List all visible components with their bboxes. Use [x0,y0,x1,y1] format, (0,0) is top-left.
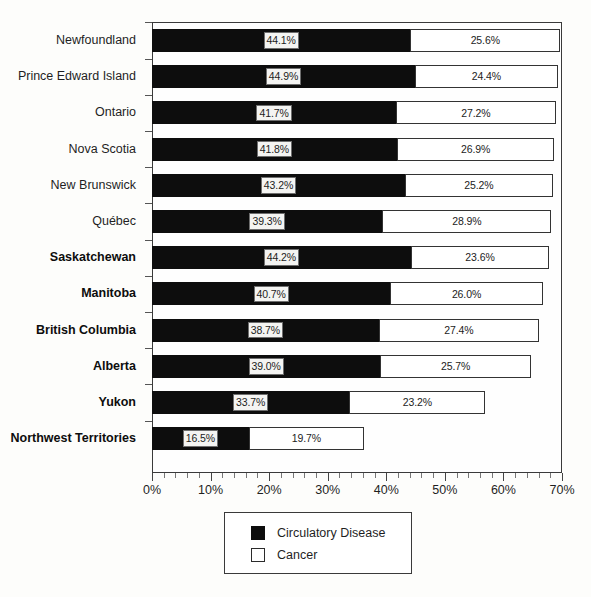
bar-value-label: 24.4% [472,71,501,82]
x-axis-tick-minor [480,473,481,478]
bar-segment-circulatory-disease: 44.2% [152,246,411,269]
x-axis-tick-minor [246,473,247,478]
bar-value-label: 43.2% [261,177,296,194]
x-axis-tick-minor [457,473,458,478]
bar-segment-circulatory-disease: 16.5% [152,427,249,450]
x-axis-tick-minor [527,473,528,478]
y-axis-tick [145,167,152,168]
bar-segment-cancer: 25.7% [380,355,531,378]
x-axis-tick-minor [293,473,294,478]
x-axis-tick-minor [410,473,411,478]
bar-value-label: 27.2% [461,108,490,119]
y-axis-label-northwest-territories: Northwest Territories [11,427,137,450]
bar-value-label: 25.6% [471,35,500,46]
bar-value-label: 19.7% [292,433,321,444]
legend-item-cancer: Cancer [225,544,411,566]
bar-value-label: 26.0% [452,289,481,300]
x-axis-tick-major [386,473,387,481]
bar-row: 33.7%23.2% [152,391,562,414]
x-axis-tick-minor [363,473,364,478]
y-axis-label-qu-bec: Québec [92,210,136,233]
bar-value-label: 41.7% [256,105,291,122]
bar-segment-cancer: 23.6% [411,246,549,269]
bar-row: 39.3%28.9% [152,210,562,233]
y-axis-tick [145,203,152,204]
x-axis-tick-minor [515,473,516,478]
x-axis-tick-major [152,473,153,481]
bar-value-label: 44.9% [266,68,301,85]
x-axis-tick-minor [316,473,317,478]
bar-segment-circulatory-disease: 39.3% [152,210,382,233]
bar-value-label: 28.9% [452,216,481,227]
bar-row: 38.7%27.4% [152,319,562,342]
x-axis-tick-label: 60% [491,483,516,497]
bar-row: 43.2%25.2% [152,174,562,197]
bar-row: 40.7%26.0% [152,282,562,305]
bar-value-label: 25.2% [464,180,493,191]
y-axis-label-alberta: Alberta [93,355,136,378]
y-axis-label-manitoba: Manitoba [81,282,136,305]
x-axis-tick-major [503,473,504,481]
bar-segment-circulatory-disease: 41.8% [152,138,397,161]
bar-value-label: 38.7% [248,322,283,339]
y-axis-tick [145,312,152,313]
bar-segment-cancer: 26.0% [390,282,542,305]
bar-segment-circulatory-disease: 44.9% [152,65,415,88]
y-axis-tick [145,276,152,277]
bar-segment-circulatory-disease: 33.7% [152,391,349,414]
bar-segment-circulatory-disease: 39.0% [152,355,380,378]
x-axis-tick-minor [257,473,258,478]
bar-segment-cancer: 26.9% [397,138,555,161]
y-axis-tick [145,22,152,23]
y-axis-tick [145,59,152,60]
bar-row: 44.2%23.6% [152,246,562,269]
x-axis-tick-label: 20% [257,483,282,497]
y-axis-label-british-columbia: British Columbia [36,319,136,342]
x-axis-tick-minor [550,473,551,478]
y-axis-label-saskatchewan: Saskatchewan [50,246,136,269]
x-axis-tick-label: 0% [143,483,161,497]
x-axis-tick-major [211,473,212,481]
bar-value-label: 23.2% [403,397,432,408]
bars-layer: 44.1%25.6%44.9%24.4%41.7%27.2%41.8%26.9%… [152,22,562,473]
stacked-bar-chart: NewfoundlandPrince Edward IslandOntarioN… [0,0,591,597]
bar-row: 16.5%19.7% [152,427,562,450]
x-axis-tick-minor [468,473,469,478]
x-axis-tick-minor [339,473,340,478]
bar-value-label: 40.7% [254,286,289,303]
x-axis-tick-minor [234,473,235,478]
x-axis-tick-major [328,473,329,481]
bar-segment-circulatory-disease: 41.7% [152,101,396,124]
y-axis-label-new-brunswick: New Brunswick [51,174,136,197]
x-axis-tick-label: 10% [198,483,223,497]
y-axis-label-prince-edward-island: Prince Edward Island [18,65,136,88]
bar-value-label: 39.0% [249,358,284,375]
x-axis-tick-minor [187,473,188,478]
x-axis-tick-minor [398,473,399,478]
bar-value-label: 23.6% [465,252,494,263]
bar-segment-cancer: 27.4% [379,319,539,342]
bar-value-label: 33.7% [233,394,268,411]
x-axis-tick-minor [281,473,282,478]
y-axis-tick [145,240,152,241]
bar-segment-cancer: 24.4% [415,65,558,88]
bar-segment-cancer: 25.6% [410,29,560,52]
bar-value-label: 39.3% [249,213,284,230]
bar-value-label: 27.4% [444,325,473,336]
chart-legend: Circulatory Disease Cancer [224,512,412,574]
bar-segment-circulatory-disease: 40.7% [152,282,390,305]
x-axis-tick-label: 70% [549,483,574,497]
bar-row: 44.1%25.6% [152,29,562,52]
legend-swatch-white-icon [251,548,265,562]
x-axis-tick-minor [433,473,434,478]
y-axis-label-ontario: Ontario [95,101,136,124]
x-axis-tick-minor [375,473,376,478]
bar-value-label: 41.8% [257,141,292,158]
x-axis-tick-minor [175,473,176,478]
x-axis-tick-minor [199,473,200,478]
x-axis-tick-label: 30% [315,483,340,497]
x-axis-tick-minor [304,473,305,478]
legend-label-circulatory-disease: Circulatory Disease [277,526,385,540]
y-axis-tick [145,384,152,385]
x-axis-tick-minor [164,473,165,478]
